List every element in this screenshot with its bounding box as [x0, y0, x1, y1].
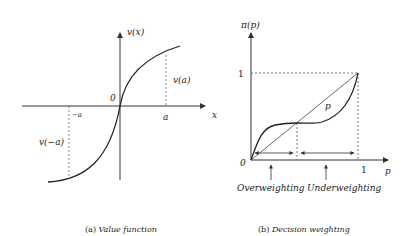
tick-neg-a: −a: [72, 111, 82, 119]
tick-a: a: [163, 112, 168, 122]
value-function-panel: v(x) x 0 a −a v(a) v(−a) (a) Value funct…: [22, 27, 217, 234]
y-axis-label: v(x): [127, 27, 145, 37]
underweighting-label: Underweighting: [307, 183, 382, 193]
tick-x-one: 1: [361, 165, 367, 175]
caption-a: (a) Value function: [85, 225, 157, 234]
diagonal-label: p: [325, 101, 331, 111]
caption-b: (b) Decision weighting: [258, 225, 350, 234]
value-neg-a-label: v(−a): [39, 137, 65, 147]
x-axis-label: x: [212, 110, 217, 120]
figure-canvas: v(x) x 0 a −a v(a) v(−a) (a) Value funct…: [0, 0, 410, 236]
y-axis-label: π(p): [240, 20, 260, 30]
overweighting-label: Overweighting: [237, 183, 305, 193]
value-curve: [48, 46, 180, 182]
diagonal-line: [251, 73, 358, 160]
value-a-label: v(a): [173, 75, 191, 85]
x-axis-label: p: [385, 166, 391, 176]
tick-y-one: 1: [238, 69, 244, 79]
origin-label: 0: [240, 158, 246, 168]
origin-label: 0: [110, 93, 116, 103]
decision-weighting-panel: π(p) p 0 1 1 p Overweighting Underweight…: [237, 20, 391, 234]
